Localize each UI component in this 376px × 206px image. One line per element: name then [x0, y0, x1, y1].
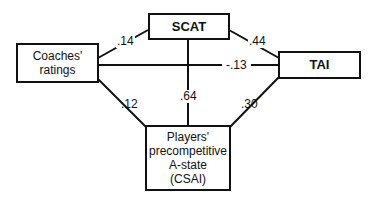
node-players-line3: A-state — [149, 158, 227, 172]
node-coaches-line2: ratings — [33, 63, 83, 77]
edge-label-coaches-players: .12 — [120, 98, 139, 111]
edge-label-tai-players: .30 — [240, 98, 259, 111]
node-players-line1: Players' — [149, 130, 227, 144]
edge-label-scat-tai: .44 — [248, 35, 267, 48]
node-players-line4: (CSAI) — [149, 172, 227, 186]
node-players-astate: Players' precompetitive A-state (CSAI) — [145, 125, 231, 191]
edge-label-coaches-scat: .14 — [116, 35, 135, 48]
edge-label-scat-players: .64 — [179, 90, 198, 103]
node-players-line2: precompetitive — [149, 144, 227, 158]
node-scat-label: SCAT — [172, 20, 206, 34]
node-tai: TAI — [278, 51, 361, 79]
edge-label-coaches-tai: -.13 — [222, 59, 251, 72]
node-coaches-line1: Coaches' — [33, 49, 83, 63]
node-tai-label: TAI — [310, 58, 330, 72]
node-coaches-ratings: Coaches' ratings — [16, 43, 99, 83]
node-scat: SCAT — [148, 13, 230, 40]
